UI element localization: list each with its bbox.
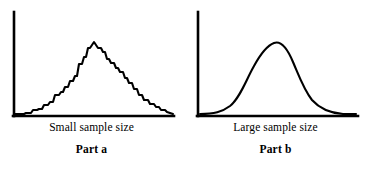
- small-sample-distribution-chart: [4, 6, 179, 122]
- caption-small-sample-size: Small sample size: [0, 120, 183, 134]
- panel-part-b: Large sample size Part b: [184, 0, 367, 170]
- plot-area-part-b: [188, 6, 363, 122]
- plot-area-part-a: [4, 6, 179, 122]
- two-panel-distribution-figure: Small sample size Part a Large sample si…: [0, 0, 367, 170]
- small-sample-curve: [15, 42, 173, 114]
- caption-part-a: Part a: [0, 142, 183, 156]
- large-sample-curve: [200, 42, 356, 114]
- large-sample-distribution-chart: [188, 6, 363, 122]
- caption-part-b: Part b: [184, 142, 367, 156]
- panel-part-a: Small sample size Part a: [0, 0, 183, 170]
- caption-large-sample-size: Large sample size: [184, 120, 367, 134]
